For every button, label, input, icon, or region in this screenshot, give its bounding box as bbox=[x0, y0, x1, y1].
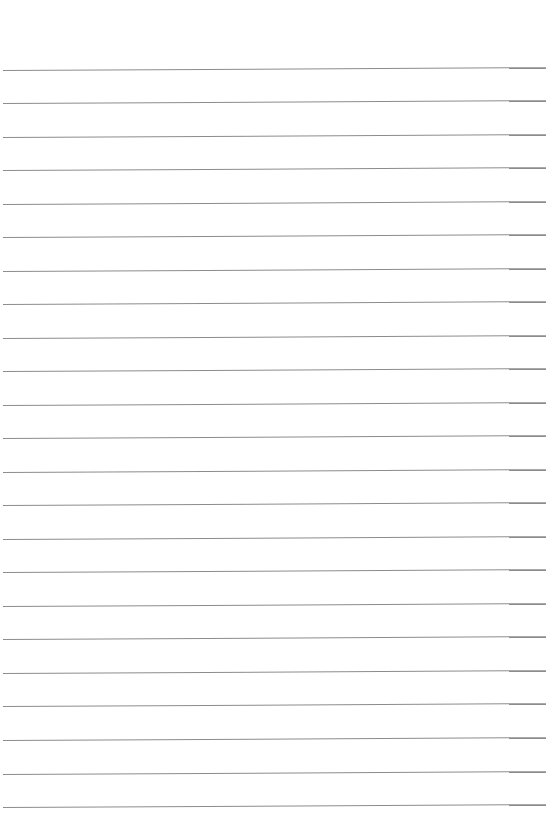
ruled-line bbox=[3, 670, 546, 674]
ruled-line bbox=[3, 737, 546, 741]
ruled-line bbox=[3, 167, 546, 171]
ruled-line bbox=[3, 569, 546, 573]
ruled-line bbox=[3, 771, 546, 775]
ruled-line bbox=[3, 301, 546, 305]
ruled-line bbox=[3, 502, 546, 506]
ruled-line bbox=[3, 435, 546, 439]
ruled-line bbox=[3, 67, 546, 71]
ruled-line bbox=[3, 201, 546, 205]
ruled-line bbox=[3, 603, 546, 607]
ruled-line bbox=[3, 234, 546, 238]
ruled-line bbox=[3, 368, 546, 372]
ruled-line bbox=[3, 134, 546, 138]
ruled-line bbox=[3, 636, 546, 640]
ruled-line bbox=[3, 268, 546, 272]
ruled-line bbox=[3, 804, 546, 808]
ruled-paper-page bbox=[0, 0, 547, 838]
ruled-line bbox=[3, 703, 546, 707]
ruled-line bbox=[3, 100, 546, 104]
ruled-line bbox=[3, 469, 546, 473]
ruled-line bbox=[3, 335, 546, 339]
ruled-line bbox=[3, 536, 546, 540]
ruled-line bbox=[3, 402, 546, 406]
